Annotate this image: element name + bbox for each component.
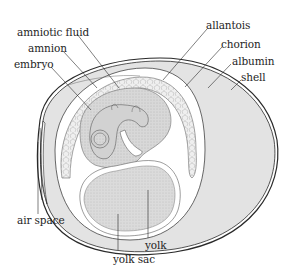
egg-diagram: amniotic fluid amnion embryo allantois c… — [0, 0, 283, 276]
label-air-space: air space — [17, 215, 65, 226]
label-shell: shell — [241, 72, 266, 83]
label-yolk-sac: yolk sac — [113, 254, 155, 265]
label-allantois: allantois — [206, 20, 250, 31]
label-yolk: yolk — [145, 240, 167, 251]
embryo-eye — [94, 133, 106, 145]
label-amnion: amnion — [28, 43, 67, 54]
label-embryo: embryo — [14, 59, 54, 70]
label-amniotic-fluid: amniotic fluid — [17, 27, 89, 38]
label-chorion: chorion — [221, 39, 261, 50]
label-albumin: albumin — [232, 56, 274, 67]
